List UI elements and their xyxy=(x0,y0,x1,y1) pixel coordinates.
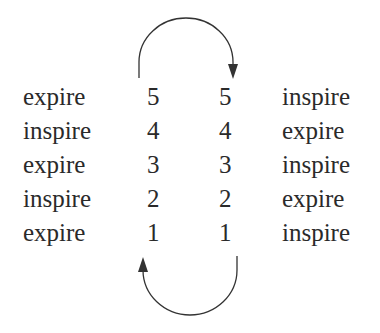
left-number: 5 xyxy=(147,80,160,114)
right-number: 1 xyxy=(219,216,232,250)
left-word: expire xyxy=(23,148,85,182)
right-word: inspire xyxy=(282,216,350,250)
right-word: inspire xyxy=(282,80,350,114)
left-number: 4 xyxy=(147,114,160,148)
left-number: 3 xyxy=(147,148,160,182)
arrowhead-down-icon xyxy=(228,64,238,79)
left-word: inspire xyxy=(23,182,91,216)
left-word: expire xyxy=(23,216,85,250)
row-2: inspire 2 2 expire xyxy=(0,182,380,216)
arrowhead-up-icon xyxy=(138,257,148,272)
right-word: expire xyxy=(282,114,344,148)
right-number: 3 xyxy=(219,148,232,182)
row-3: expire 3 3 inspire xyxy=(0,148,380,182)
right-word: expire xyxy=(282,182,344,216)
right-number: 5 xyxy=(219,80,232,114)
row-1: expire 1 1 inspire xyxy=(0,216,380,250)
left-word: expire xyxy=(23,80,85,114)
right-word: inspire xyxy=(282,148,350,182)
row-5: expire 5 5 inspire xyxy=(0,80,380,114)
left-number: 1 xyxy=(147,216,160,250)
bottom-arc-arrow xyxy=(138,256,237,315)
left-word: inspire xyxy=(23,114,91,148)
top-arc-arrow xyxy=(139,18,238,79)
right-number: 2 xyxy=(219,182,232,216)
row-4: inspire 4 4 expire xyxy=(0,114,380,148)
left-number: 2 xyxy=(147,182,160,216)
right-number: 4 xyxy=(219,114,232,148)
